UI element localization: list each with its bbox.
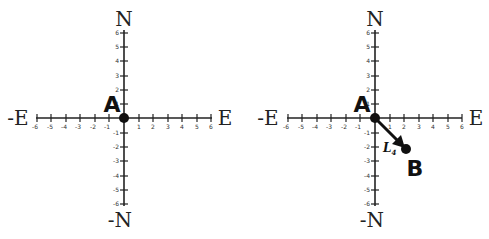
svg-text:5: 5 xyxy=(115,43,119,50)
svg-text:-4: -4 xyxy=(312,123,318,130)
svg-text:-3: -3 xyxy=(113,157,119,164)
south-label: -N xyxy=(360,208,384,232)
svg-text:3: 3 xyxy=(417,123,421,130)
east-label: E xyxy=(469,106,484,130)
svg-text:-6: -6 xyxy=(113,200,119,207)
svg-text:5: 5 xyxy=(195,123,199,130)
svg-text:-2: -2 xyxy=(364,143,370,150)
vector-ab-shaft xyxy=(375,118,400,143)
svg-text:-5: -5 xyxy=(298,123,304,130)
svg-text:2: 2 xyxy=(151,123,155,130)
svg-text:4: 4 xyxy=(115,57,119,64)
svg-text:-6: -6 xyxy=(283,123,289,130)
svg-text:6: 6 xyxy=(209,123,213,130)
point-a-marker xyxy=(370,113,380,123)
west-label: -E xyxy=(257,106,278,130)
svg-text:-2: -2 xyxy=(341,123,347,130)
svg-text:-4: -4 xyxy=(364,172,370,179)
svg-text:-5: -5 xyxy=(47,123,53,130)
svg-text:4: 4 xyxy=(366,57,370,64)
right-grid-svg: -6 -5 -4 -3 -2 -1 1 2 3 4 5 6 6 5 4 3 2 … xyxy=(245,0,489,239)
svg-text:-1: -1 xyxy=(364,129,370,136)
svg-text:-1: -1 xyxy=(355,123,361,130)
svg-text:3: 3 xyxy=(115,72,119,79)
left-grid-svg: -6 -5 -4 -3 -2 -1 1 2 3 4 5 6 6 5 4 3 2 … xyxy=(0,0,245,239)
svg-text:-3: -3 xyxy=(364,157,370,164)
svg-text:-6: -6 xyxy=(32,123,38,130)
svg-text:-2: -2 xyxy=(90,123,96,130)
svg-text:-6: -6 xyxy=(364,200,370,207)
svg-text:-3: -3 xyxy=(326,123,332,130)
svg-text:-4: -4 xyxy=(61,123,67,130)
svg-text:-5: -5 xyxy=(364,186,370,193)
left-coordinate-grid: -6 -5 -4 -3 -2 -1 1 2 3 4 5 6 6 5 4 3 2 … xyxy=(0,0,245,239)
svg-text:-1: -1 xyxy=(104,123,110,130)
x-tick-labels: -6 -5 -4 -3 -2 -1 1 2 3 4 5 6 xyxy=(283,123,464,130)
north-label: N xyxy=(366,7,384,31)
point-b-label: B xyxy=(407,156,424,181)
svg-text:-4: -4 xyxy=(113,172,119,179)
north-label: N xyxy=(115,7,133,31)
svg-text:3: 3 xyxy=(366,72,370,79)
svg-text:2: 2 xyxy=(402,123,406,130)
point-a-label: A xyxy=(103,92,120,117)
svg-text:-1: -1 xyxy=(113,129,119,136)
point-b-marker xyxy=(401,144,411,154)
south-label: -N xyxy=(108,208,132,232)
svg-text:-5: -5 xyxy=(113,186,119,193)
svg-text:1: 1 xyxy=(388,123,392,130)
right-coordinate-grid: -6 -5 -4 -3 -2 -1 1 2 3 4 5 6 6 5 4 3 2 … xyxy=(245,0,489,239)
svg-text:4: 4 xyxy=(180,123,184,130)
x-tick-labels: -6 -5 -4 -3 -2 -1 1 2 3 4 5 6 xyxy=(32,123,213,130)
svg-text:5: 5 xyxy=(446,123,450,130)
svg-text:-2: -2 xyxy=(113,143,119,150)
svg-text:6: 6 xyxy=(460,123,464,130)
svg-text:5: 5 xyxy=(366,43,370,50)
west-label: -E xyxy=(7,106,28,130)
svg-text:4: 4 xyxy=(431,123,435,130)
svg-text:3: 3 xyxy=(166,123,170,130)
svg-text:1: 1 xyxy=(137,123,141,130)
point-a-label: A xyxy=(353,92,370,117)
east-label: E xyxy=(218,106,233,130)
svg-text:-3: -3 xyxy=(75,123,81,130)
